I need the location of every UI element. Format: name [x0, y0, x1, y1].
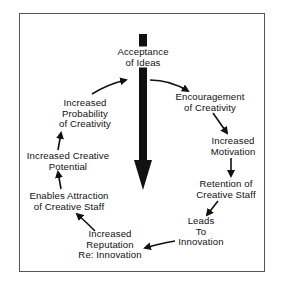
node-encouragement-of-creativity: Encouragement of Creativity: [175, 92, 244, 113]
node-retention-of-creative-staff: Retention of Creative Staff: [196, 179, 255, 200]
arrow-acceptance-to-encouragement: [150, 80, 188, 91]
node-increased-motivation: Increased Motivation: [211, 136, 256, 157]
node-increased-probability: Increased Probability of Creativity: [59, 98, 111, 130]
node-enables-attraction: Enables Attraction of Creative Staff: [29, 191, 108, 212]
arrow-potential-to-probability: [58, 133, 61, 150]
node-acceptance-of-ideas: Acceptance of Ideas: [115, 47, 170, 68]
arrow-retention-to-innovation: [207, 201, 218, 215]
node-leads-to-innovation: Leads To Innovation: [178, 216, 223, 248]
arrow-attraction-to-potential: [58, 172, 61, 189]
arrow-innovation-to-reputation: [145, 241, 175, 248]
node-increased-reputation: Increased Reputation Re: Innovation: [78, 229, 141, 261]
node-increased-creative-potential: Increased Creative Potential: [27, 151, 109, 172]
arrow-encouragement-to-motivation: [213, 113, 227, 133]
arrow-probability-to-acceptance: [92, 80, 126, 94]
